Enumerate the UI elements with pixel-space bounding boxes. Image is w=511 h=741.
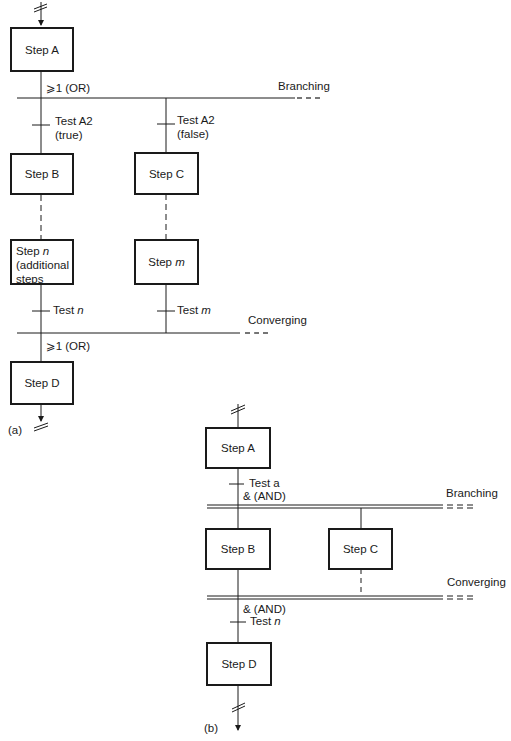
test-a2-true-line1: Test A2 bbox=[55, 115, 93, 127]
step-c-box: Step C bbox=[134, 152, 199, 195]
step-b-label: Step B bbox=[25, 167, 60, 181]
step-b-box-b: Step B bbox=[205, 528, 271, 570]
test-a2-false-label: Test A2 (false) bbox=[177, 114, 215, 141]
test-a2-false-line2: (false) bbox=[177, 128, 209, 140]
test-n-label-a: Test n bbox=[53, 304, 84, 318]
test-n-var: n bbox=[77, 304, 83, 316]
and-top-label: & (AND) bbox=[243, 490, 286, 504]
branching-label-b: Branching bbox=[446, 487, 498, 501]
step-c-label-b: Step C bbox=[343, 542, 378, 556]
step-b-label-b: Step B bbox=[221, 542, 256, 556]
test-a2-true-label: Test A2 (true) bbox=[55, 115, 93, 142]
step-n-box: Step n (additional steps bbox=[10, 239, 74, 285]
test-n-prefix-b: Test bbox=[250, 615, 274, 627]
test-a2-false-line1: Test A2 bbox=[177, 114, 215, 126]
step-m-prefix: Step bbox=[148, 256, 175, 268]
step-n-line3: steps bbox=[16, 273, 44, 285]
step-d-label: Step D bbox=[24, 376, 59, 390]
test-m-var: m bbox=[201, 304, 211, 316]
step-n-prefix: Step bbox=[16, 245, 43, 257]
converging-label-a: Converging bbox=[248, 314, 307, 328]
step-d-box: Step D bbox=[10, 361, 74, 405]
step-d-box-b: Step D bbox=[206, 642, 272, 686]
step-c-box-b: Step C bbox=[328, 528, 393, 570]
step-m-label: Step m bbox=[148, 255, 184, 269]
step-n-line2: (additional bbox=[16, 259, 69, 271]
test-n-prefix: Test bbox=[53, 304, 77, 316]
step-c-label: Step C bbox=[149, 167, 184, 181]
caption-a: (a) bbox=[8, 424, 22, 438]
step-a-label-b: Step A bbox=[221, 441, 255, 455]
branching-label-a: Branching bbox=[278, 80, 330, 94]
diagram-lines bbox=[0, 0, 511, 741]
step-a-box-b: Step A bbox=[205, 427, 271, 469]
converging-label-b: Converging bbox=[447, 576, 506, 590]
step-n-text: Step n (additional steps bbox=[16, 244, 69, 286]
test-a-label: Test a bbox=[249, 477, 280, 491]
caption-b: (b) bbox=[204, 722, 218, 736]
test-a2-true-line2: (true) bbox=[55, 129, 82, 141]
step-d-label-b: Step D bbox=[221, 657, 256, 671]
step-m-box: Step m bbox=[134, 239, 199, 285]
step-a-box: Step A bbox=[10, 27, 74, 72]
step-b-box: Step B bbox=[10, 153, 74, 195]
test-n-var-b: n bbox=[274, 615, 280, 627]
test-m-label: Test m bbox=[177, 304, 211, 318]
step-m-var: m bbox=[175, 256, 185, 268]
step-a-label: Step A bbox=[25, 43, 59, 57]
test-n-label-b: Test n bbox=[250, 615, 281, 629]
step-n-var: n bbox=[43, 245, 49, 257]
test-m-prefix: Test bbox=[177, 304, 201, 316]
or-bottom-label: ⩾1 (OR) bbox=[46, 340, 90, 354]
or-top-label: ⩾1 (OR) bbox=[46, 82, 90, 96]
